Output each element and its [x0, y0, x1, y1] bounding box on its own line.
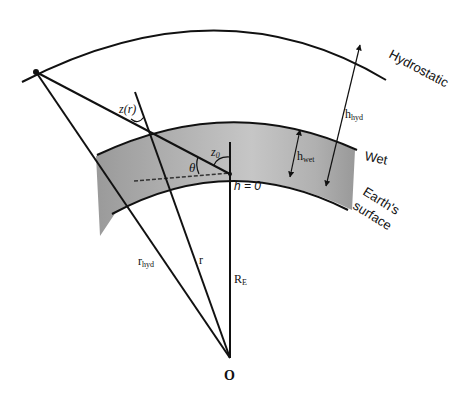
- atmospheric-layers-diagram: Hydrostatic Wet Earth's surface hhyd hwe…: [0, 0, 457, 397]
- earth-radius-label: RE: [234, 272, 247, 287]
- hydrostatic-label: Hydrostatic: [387, 46, 452, 90]
- r-label: r: [199, 253, 203, 267]
- wet-label: Wet: [363, 148, 389, 168]
- r-hyd-label: rhyd: [138, 254, 154, 269]
- h-hyd-label: hhyd: [345, 107, 363, 122]
- faint-caption-residue: [250, 384, 450, 394]
- ground-station-point: [228, 172, 232, 176]
- z-r-angle-arc: [131, 117, 144, 122]
- origin-label: O: [224, 368, 235, 383]
- z-r-label: z(r): [118, 102, 136, 116]
- theta-label: θ: [189, 160, 196, 175]
- hydrostatic-boundary-arc: [22, 30, 386, 82]
- h-zero-label: h = 0: [234, 179, 261, 193]
- satellite-point: [33, 69, 39, 75]
